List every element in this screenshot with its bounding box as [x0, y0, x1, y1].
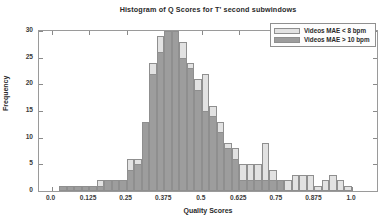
y-axis-tick [373, 84, 377, 85]
histogram-bar [232, 159, 240, 191]
legend-item: Videos MAE < 8 bpm [274, 26, 372, 35]
histogram-bar [104, 180, 112, 191]
y-axis-tick [39, 138, 43, 139]
histogram-bar [112, 180, 120, 191]
x-axis-tick [202, 31, 203, 35]
histogram-bar [74, 186, 82, 191]
x-axis-tick [89, 31, 90, 35]
histogram-bar [82, 186, 90, 191]
histogram-bar [157, 52, 165, 191]
histogram-bar [142, 122, 150, 191]
histogram-bar [119, 180, 127, 191]
x-axis-tick-label: 0.875 [305, 194, 322, 201]
histogram-bar [284, 180, 292, 191]
y-axis-tick-label: 10 [0, 133, 33, 140]
y-axis-tick-label: 15 [0, 106, 33, 113]
legend-item: Videos MAE > 10 bpm [274, 35, 372, 44]
histogram-bar [329, 175, 337, 191]
histogram-bar [209, 116, 217, 191]
histogram-bar [224, 148, 232, 191]
histogram-bar [277, 180, 285, 191]
x-axis-tick [352, 187, 353, 191]
legend-swatch-icon [274, 28, 300, 34]
x-axis-tick [239, 31, 240, 35]
y-axis-tick-label: 30 [0, 26, 33, 33]
histogram-bar [247, 180, 255, 191]
histogram-bar [262, 180, 270, 191]
histogram-bar [254, 180, 262, 191]
x-axis-tick-label: 1.0 [346, 194, 355, 201]
chart-title: Histogram of Q Scores for T' second subw… [38, 5, 378, 14]
x-axis-tick-label: 0.5 [196, 194, 205, 201]
histogram-figure: Histogram of Q Scores for T' second subw… [0, 0, 390, 223]
y-axis-tick [39, 58, 43, 59]
x-axis-title: Quality Scores [38, 207, 378, 214]
histogram-bar [164, 31, 172, 191]
y-axis-tick [39, 111, 43, 112]
x-axis-tick-label: 0.0 [46, 194, 55, 201]
x-axis-tick [127, 31, 128, 35]
histogram-bar [97, 186, 105, 191]
histogram-bar [127, 170, 135, 191]
y-axis-tick-label: 20 [0, 79, 33, 86]
histogram-bar [307, 175, 315, 191]
histogram-bar [179, 58, 187, 191]
histogram-bar [322, 180, 330, 191]
legend-label: Videos MAE < 8 bpm [304, 27, 366, 34]
x-axis-tick-label: 0.625 [230, 194, 247, 201]
x-axis-tick [52, 31, 53, 35]
histogram-bar [299, 175, 307, 191]
y-axis-tick [373, 111, 377, 112]
legend-label: Videos MAE > 10 bpm [304, 36, 370, 43]
x-axis-tick [52, 187, 53, 191]
histogram-bar [269, 180, 277, 191]
y-axis-tick [373, 58, 377, 59]
y-axis-tick [39, 31, 43, 32]
y-axis-tick [373, 191, 377, 192]
y-axis-tick [39, 191, 43, 192]
histogram-bar [187, 68, 195, 191]
histogram-bar [89, 186, 97, 191]
y-axis-tick-label: 5 [0, 159, 33, 166]
histogram-bar [337, 180, 345, 191]
histogram-bar [217, 132, 225, 191]
y-axis-tick-label: 0 [0, 186, 33, 193]
histogram-bar [314, 186, 322, 191]
histogram-bar [149, 74, 157, 191]
histogram-bar [292, 175, 300, 191]
histogram-bar [239, 180, 247, 191]
y-axis-tick-label: 25 [0, 53, 33, 60]
histogram-bar [134, 164, 142, 191]
y-axis-tick [39, 84, 43, 85]
chart-legend: Videos MAE < 8 bpm Videos MAE > 10 bpm [270, 23, 376, 47]
y-axis-tick [373, 138, 377, 139]
x-axis-tick-label: 0.75 [269, 194, 282, 201]
plot-area [38, 30, 378, 192]
y-axis-tick [39, 164, 43, 165]
x-axis-tick-label: 0.125 [80, 194, 97, 201]
histogram-bar [344, 186, 352, 191]
bars-layer [39, 31, 377, 191]
histogram-bar [194, 90, 202, 191]
histogram-bar [67, 186, 75, 191]
legend-swatch-icon [274, 37, 300, 43]
histogram-bar [59, 186, 67, 191]
x-axis-tick-label: 0.25 [119, 194, 132, 201]
histogram-bar [202, 111, 210, 191]
x-axis-tick-label: 0.375 [155, 194, 172, 201]
histogram-bar [172, 31, 180, 191]
y-axis-tick [373, 164, 377, 165]
